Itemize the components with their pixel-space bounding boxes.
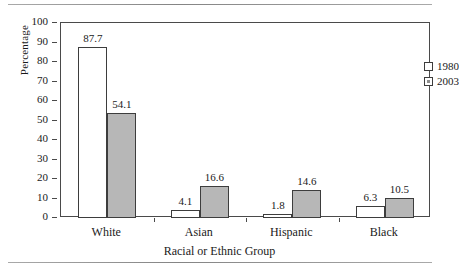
x-axis-title: Racial or Ethnic Group [0,244,439,259]
x-group-label-asian: Asian [149,225,249,240]
y-tick-label: 70 [10,74,48,87]
x-group-label-black: Black [334,225,434,240]
bar-value-label: 54.1 [102,98,142,110]
bar-hispanic-1980 [263,214,292,218]
y-tick-label: 50 [10,113,48,126]
legend-item-2003: 2003 [424,75,459,88]
y-tick-label: 40 [10,132,48,145]
y-tick-mark [52,42,57,43]
page-rule-top [8,4,432,5]
y-tick-mark [52,120,57,121]
bar-value-label: 16.6 [194,171,234,183]
bar-value-label: 10.5 [379,183,419,195]
legend-label: 2003 [437,76,459,87]
bar-asian-2003 [200,186,229,218]
legend-item-1980: 1980 [424,60,459,73]
legend-label: 1980 [437,61,459,72]
legend: 19802003 [424,60,459,90]
x-axis-separator-tick [339,218,340,222]
bar-asian-1980 [171,210,200,218]
plot-area: 87.754.14.116.61.814.66.310.5 19802003 [60,22,430,217]
y-tick-label: 100 [10,15,48,28]
y-tick-label: 80 [10,54,48,67]
x-group-label-white: White [56,225,156,240]
bar-black-1980 [356,206,385,218]
y-tick-label: 0 [10,210,48,223]
y-tick-mark [52,61,57,62]
y-tick-label: 60 [10,93,48,106]
y-tick-mark [52,159,57,160]
y-tick-label: 10 [10,191,48,204]
bar-white-2003 [107,113,136,218]
y-tick-label: 30 [10,152,48,165]
bar-black-2003 [385,198,414,218]
x-axis-separator-tick [246,218,247,222]
y-tick-mark [52,178,57,179]
y-tick-mark [52,81,57,82]
y-tick-mark [52,198,57,199]
x-axis-separator-tick [154,218,155,222]
y-tick-mark [52,100,57,101]
gray-square-icon [424,77,433,86]
y-tick-mark [52,22,57,23]
white-square-icon [424,62,433,71]
x-group-label-hispanic: Hispanic [241,225,341,240]
y-tick-label: 20 [10,171,48,184]
y-tick-mark [52,217,57,218]
bar-white-1980 [78,47,107,218]
y-tick-label: 90 [10,35,48,48]
bar-value-label: 14.6 [287,175,327,187]
y-tick-mark [52,139,57,140]
bar-value-label: 87.7 [73,32,113,44]
page-rule-bottom [8,262,432,263]
bar-hispanic-2003 [292,190,321,218]
